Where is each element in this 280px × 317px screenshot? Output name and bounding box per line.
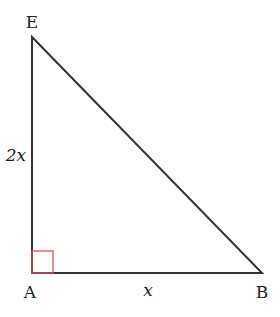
vertex-label-a: A <box>23 282 37 302</box>
triangle-aeb <box>32 37 262 273</box>
side-label-ab: x <box>143 280 153 300</box>
right-angle-marker <box>32 251 53 273</box>
side-label-ae: 2x <box>5 145 27 165</box>
vertex-label-b: B <box>256 282 269 302</box>
vertex-label-e: E <box>26 12 38 32</box>
triangle-diagram: E A B 2x x <box>0 0 280 317</box>
